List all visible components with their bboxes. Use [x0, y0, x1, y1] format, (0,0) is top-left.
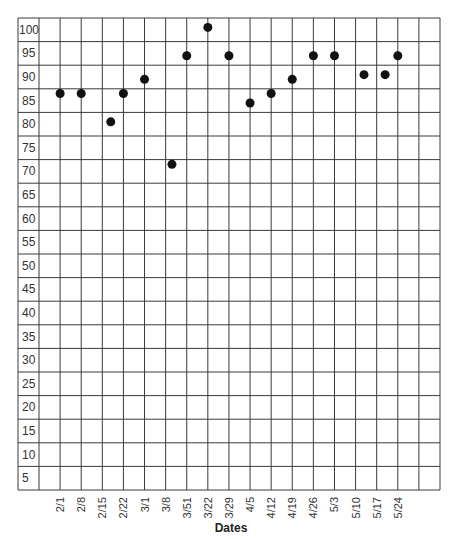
- y-tick-label: 35: [22, 330, 36, 344]
- data-point: [381, 70, 390, 79]
- data-point: [309, 51, 318, 60]
- y-tick-label: 5: [22, 471, 29, 485]
- data-point: [167, 160, 176, 169]
- x-tick-label: 5/24: [392, 497, 404, 518]
- data-point: [140, 75, 149, 84]
- x-axis-title: Dates: [215, 521, 248, 535]
- y-tick-label: 45: [22, 282, 36, 296]
- data-point: [56, 89, 65, 98]
- x-tick-label: 4/12: [265, 497, 277, 518]
- data-point: [106, 117, 115, 126]
- x-tick-label: 5/3: [328, 497, 340, 512]
- y-tick-label: 55: [22, 235, 36, 249]
- y-tick-label: 65: [22, 188, 36, 202]
- y-tick-label: 40: [22, 306, 36, 320]
- x-tick-label: 2/1: [54, 497, 66, 512]
- y-tick-label: 20: [22, 400, 36, 414]
- y-tick-label: 80: [22, 117, 36, 131]
- data-point: [77, 89, 86, 98]
- data-point: [224, 51, 233, 60]
- x-tick-label: 3/1: [139, 497, 151, 512]
- x-tick-label: 2/15: [96, 497, 108, 518]
- x-tick-label: 4/5: [244, 497, 256, 512]
- y-tick-label: 10: [22, 448, 36, 462]
- y-tick-label: 100: [19, 23, 39, 37]
- data-point: [393, 51, 402, 60]
- x-tick-label: 3/8: [160, 497, 172, 512]
- x-tick-label: 5/10: [350, 497, 362, 518]
- x-tick-label: 5/17: [371, 497, 383, 518]
- y-tick-label: 15: [22, 424, 36, 438]
- y-tick-label: 60: [22, 212, 36, 226]
- data-point: [119, 89, 128, 98]
- x-tick-label: 4/19: [286, 497, 298, 518]
- x-tick-label: 3/29: [223, 497, 235, 518]
- x-tick-label: 2/8: [75, 497, 87, 512]
- y-tick-label: 85: [22, 94, 36, 108]
- y-tick-label: 90: [22, 70, 36, 84]
- x-tick-label: 4/26: [307, 497, 319, 518]
- data-point: [267, 89, 276, 98]
- x-tick-label: 2/22: [117, 497, 129, 518]
- y-tick-label: 50: [22, 259, 36, 273]
- data-point: [330, 51, 339, 60]
- y-tick-label: 30: [22, 353, 36, 367]
- y-tick-label: 75: [22, 141, 36, 155]
- data-point: [288, 75, 297, 84]
- data-point: [182, 51, 191, 60]
- y-tick-label: 70: [22, 164, 36, 178]
- y-tick-label: 95: [22, 46, 36, 60]
- x-tick-label: 3/51: [181, 497, 193, 518]
- x-axis-labels: 2/12/82/152/223/13/83/513/223/294/54/124…: [54, 497, 404, 518]
- data-point: [246, 98, 255, 107]
- y-tick-label: 25: [22, 377, 36, 391]
- x-tick-label: 3/22: [202, 497, 214, 518]
- scatter-chart: 1009590858075706560555045403530252015105…: [0, 0, 453, 539]
- chart-grid: [18, 18, 440, 490]
- data-point: [203, 23, 212, 32]
- data-point: [360, 70, 369, 79]
